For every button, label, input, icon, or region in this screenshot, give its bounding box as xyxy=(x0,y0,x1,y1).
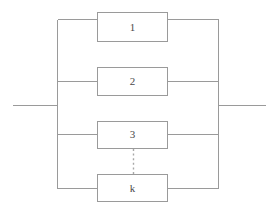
block-3[interactable]: 3 xyxy=(98,122,168,149)
diagram-canvas: 1 2 3 k xyxy=(0,0,272,212)
block-1-label: 1 xyxy=(130,21,136,33)
block-k-label: k xyxy=(130,182,136,194)
block-2[interactable]: 2 xyxy=(98,68,168,96)
block-2-label: 2 xyxy=(130,75,136,87)
block-k[interactable]: k xyxy=(98,175,168,202)
block-1[interactable]: 1 xyxy=(98,13,168,42)
block-3-label: 3 xyxy=(130,128,136,140)
parallel-block-diagram: 1 2 3 k xyxy=(0,0,272,212)
